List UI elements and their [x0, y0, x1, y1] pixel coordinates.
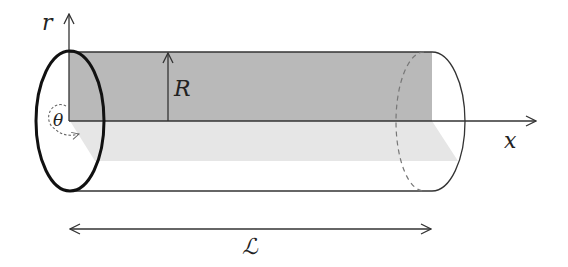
cylinder-diagram: r x R θ ℒ: [0, 0, 568, 267]
upper-shaded-plane: [69, 52, 432, 121]
r-axis-label: r: [42, 10, 54, 35]
diagram-svg: r x R θ ℒ: [0, 0, 568, 267]
theta-label: θ: [53, 110, 63, 130]
radius-label: R: [173, 76, 191, 101]
length-label: ℒ: [242, 234, 259, 259]
lower-shaded-plane: [70, 121, 458, 161]
x-axis-label: x: [504, 128, 517, 153]
